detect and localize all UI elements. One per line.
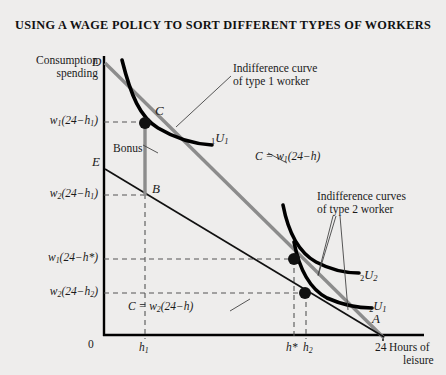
annotation-indiff-type2-line2: of type 2 worker	[317, 203, 393, 216]
x-tick-h2: h2	[303, 341, 313, 355]
leader-indiff-type1	[176, 76, 231, 127]
annotation-budget-high: C = w1(24−h)	[255, 150, 320, 164]
point-tangency-U2-dot	[288, 253, 300, 265]
point-tangency-U1-dot	[299, 287, 311, 299]
annotation-indiff-type1-line1: Indifference curve	[233, 62, 317, 75]
y-tick-w1-24-h1: w1(24−h1)	[14, 114, 98, 128]
x-tick-h1: h1	[139, 341, 149, 355]
annotation-indiff-type1-line2: of type 1 worker	[233, 75, 309, 88]
point-C-dot	[139, 117, 151, 129]
y-axis-caption-line2: spending	[18, 67, 98, 80]
curve-label-1U1: 1U1	[211, 131, 229, 147]
y-tick-w2-24-h2: w2(24−h2)	[14, 285, 98, 299]
point-label-B: B	[152, 182, 160, 197]
annotation-indiff-type2-line1: Indifference curves	[317, 190, 406, 203]
point-label-D: D	[92, 55, 101, 70]
y-tick-w1-24-hstar: w1(24−h*)	[14, 251, 98, 265]
annotation-bonus: Bonus	[113, 142, 142, 155]
annotation-budget-low: C = w2(24−h)	[128, 300, 193, 314]
y-axis-caption-line1: Consumption	[18, 54, 98, 67]
point-label-C: C	[155, 104, 164, 119]
figure-container: USING A WAGE POLICY TO SORT DIFFERENT TY…	[0, 0, 446, 375]
indifference-curve-1U1	[122, 60, 212, 145]
x-axis-caption-line1: Hours of	[389, 341, 430, 354]
x-tick-hstar: h*	[286, 341, 298, 354]
x-tick-24: 24	[375, 341, 387, 354]
curve-label-2U2: 2U2	[360, 268, 378, 284]
leader-budget-low	[230, 299, 250, 311]
curve-label-2U1: 2U1	[369, 299, 387, 315]
y-tick-w2-24-h1: w2(24−h1)	[14, 187, 98, 201]
point-label-E: E	[92, 155, 100, 170]
origin-label: 0	[88, 338, 94, 351]
x-axis-caption-line2: leisure	[403, 354, 434, 367]
